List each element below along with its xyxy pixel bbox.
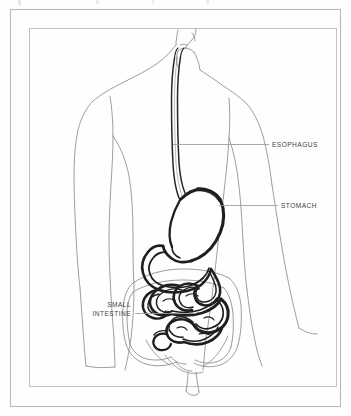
label-small-intestine-line2: INTESTINE xyxy=(93,310,132,317)
label-esophagus: ESOPHAGUS xyxy=(272,141,318,148)
digestive-system-diagram: ESOPHAGUS STOMACH SMALL INTESTINE xyxy=(0,0,351,416)
label-small-intestine-line1: SMALL xyxy=(107,301,131,308)
anatomy-figure: ESOPHAGUS STOMACH SMALL INTESTINE xyxy=(0,0,351,416)
label-stomach: STOMACH xyxy=(281,202,317,209)
